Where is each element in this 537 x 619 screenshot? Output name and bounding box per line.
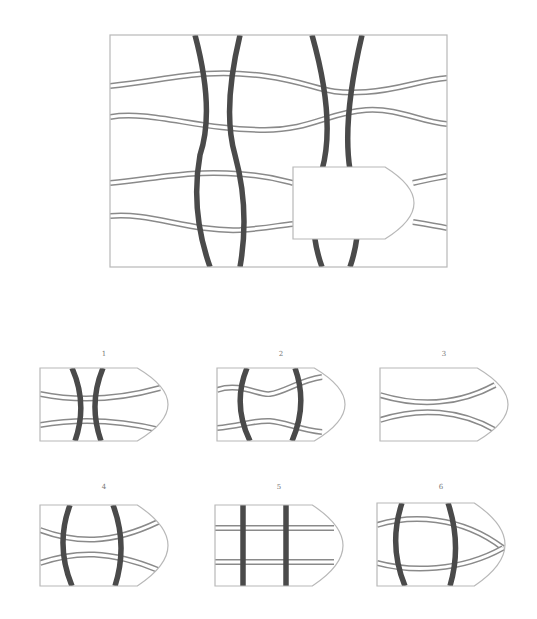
option-label-4: 4: [94, 483, 114, 491]
main-grid: [110, 35, 447, 267]
option-label-1: 1: [94, 350, 114, 358]
option-1[interactable]: [40, 368, 168, 441]
option-6[interactable]: [377, 503, 505, 586]
option-label-5: 5: [269, 483, 289, 491]
option-label-6: 6: [431, 483, 451, 491]
option-label-2: 2: [271, 350, 291, 358]
missing-piece-blank: [293, 167, 414, 239]
option-4[interactable]: [40, 505, 168, 586]
option-2[interactable]: [217, 368, 345, 441]
puzzle-stage: 1 2 3 4 5 6: [0, 0, 537, 619]
option-label-3: 3: [434, 350, 454, 358]
option-5[interactable]: [215, 505, 343, 586]
option-3[interactable]: [380, 368, 508, 441]
